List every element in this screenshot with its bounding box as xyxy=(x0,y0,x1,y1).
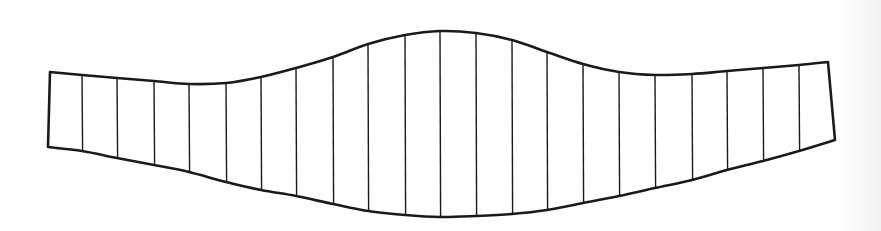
sectioned-band-diagram xyxy=(0,0,881,231)
vertical-divider-line xyxy=(476,33,477,216)
vertical-divider-line xyxy=(117,78,118,158)
vertical-divider-line xyxy=(333,57,334,204)
vertical-divider-line xyxy=(368,44,369,211)
vertical-divider-line xyxy=(189,84,190,172)
vertical-divider-line xyxy=(82,75,83,151)
vertical-divider-line xyxy=(799,65,800,151)
vertical-divider-line xyxy=(405,35,406,215)
vertical-divider-line xyxy=(261,77,262,190)
vertical-divider-line xyxy=(154,81,155,165)
vertical-divider-line xyxy=(583,64,584,203)
vertical-divider-line xyxy=(692,74,693,180)
vertical-divider-line xyxy=(226,83,227,182)
vertical-divider-line xyxy=(619,72,620,196)
vertical-divider-line xyxy=(727,71,728,170)
vertical-divider-line xyxy=(547,52,548,210)
vertical-divider-line xyxy=(440,31,441,217)
vertical-divider-line xyxy=(512,40,513,214)
vertical-dividers xyxy=(82,31,800,217)
vertical-divider-line xyxy=(763,68,764,161)
vertical-divider-line xyxy=(655,75,656,188)
band-outline xyxy=(48,31,835,217)
vertical-divider-line xyxy=(296,68,297,196)
